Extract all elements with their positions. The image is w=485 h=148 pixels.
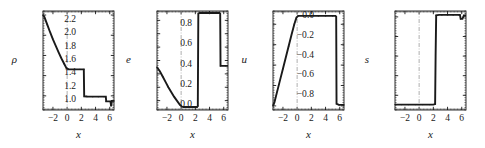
series-point [294, 24, 295, 25]
y-tick-label: −0.8 [297, 90, 314, 100]
x-tick-label: 6 [454, 114, 470, 124]
series-point [288, 46, 289, 47]
multi-panel-figure: 246810 ρ x −20246 1.01.21.41.61.82.02.2 … [0, 0, 485, 148]
y-tick-label: −0.6 [297, 70, 314, 80]
series-point [338, 104, 339, 105]
series-point [434, 103, 435, 104]
series-point [225, 65, 226, 66]
series-point [415, 104, 416, 105]
series-point [105, 101, 106, 102]
y-tick-label: 1.4 [64, 68, 76, 78]
series-point [282, 68, 283, 69]
y-tick-label: 0.2 [180, 80, 192, 90]
panel-u: 0.00.20.40.60.8 u x −20246 [230, 0, 351, 148]
series-point [219, 12, 220, 13]
series-point [162, 76, 163, 77]
panel-e-xlabel: x [157, 128, 228, 140]
series-point [394, 104, 395, 105]
series-point [463, 15, 464, 16]
series-point [47, 24, 48, 25]
plot-frame [43, 11, 114, 110]
series-point [86, 96, 87, 97]
series-point [110, 101, 111, 102]
series-point [435, 15, 436, 16]
series-point [199, 12, 200, 13]
panel-e-canvas [114, 0, 235, 148]
panel-s: 0.0−0.2−0.4−0.6−0.8 s x −20246 [352, 0, 473, 148]
y-tick-label: 0.8 [180, 19, 192, 29]
series-s [395, 15, 466, 105]
series-point [205, 12, 206, 13]
series-point [422, 104, 423, 105]
series-e [157, 13, 228, 107]
series-point [460, 18, 461, 19]
series-point [220, 65, 221, 66]
y-tick-label: 0.4 [180, 60, 192, 70]
series-point [453, 14, 454, 15]
series-point [408, 104, 409, 105]
series-point [92, 96, 93, 97]
panel-rho: 246810 ρ x −20246 [0, 0, 121, 148]
series-rho [43, 15, 114, 106]
series-point [277, 90, 278, 91]
series-point [335, 16, 336, 17]
series-point [111, 100, 112, 101]
series-point [197, 105, 198, 106]
series-point [272, 105, 273, 106]
x-tick-label: 6 [332, 114, 348, 124]
y-tick-label: 0.0 [180, 100, 192, 110]
series-point [58, 52, 59, 53]
y-tick-label: 1.6 [64, 55, 76, 65]
panel-s-canvas [352, 0, 473, 148]
series-point [212, 12, 213, 13]
panel-e: 1.01.21.41.61.82.02.2 e x −20246 [114, 0, 235, 148]
y-tick-label: −0.2 [297, 31, 314, 41]
y-tick-label: −0.4 [297, 51, 314, 61]
series-point [194, 106, 195, 107]
plot-frame [395, 11, 466, 110]
series-point [318, 15, 319, 16]
series-point [332, 15, 333, 16]
series-point [429, 104, 430, 105]
y-tick-label: 1.0 [64, 95, 76, 105]
series-point [401, 104, 402, 105]
y-tick-label: 0.6 [180, 39, 192, 49]
series-point [458, 14, 459, 15]
series-point [343, 104, 344, 105]
series-point [325, 15, 326, 16]
series-point [156, 66, 157, 67]
y-tick-label: 0.0 [302, 11, 314, 21]
series-point [298, 15, 299, 16]
panel-u-xlabel: x [273, 128, 344, 140]
panel-rho-canvas [0, 0, 121, 148]
y-tick-label: 2.2 [64, 15, 76, 25]
plot-frame [157, 11, 228, 110]
y-tick-label: 1.2 [64, 82, 76, 92]
series-point [447, 14, 448, 15]
panel-s-xlabel: x [395, 128, 466, 140]
series-point [79, 69, 80, 70]
series-point [42, 14, 43, 15]
panel-u-canvas [230, 0, 351, 148]
series-point [441, 14, 442, 15]
series-point [173, 96, 174, 97]
y-tick-label: 2.0 [64, 28, 76, 38]
series-point [98, 96, 99, 97]
panel-rho-xlabel: x [43, 128, 114, 140]
series-point [103, 96, 104, 97]
series-point [52, 39, 53, 40]
series-point [168, 87, 169, 88]
y-tick-label: 1.8 [64, 42, 76, 52]
series-point [83, 69, 84, 70]
